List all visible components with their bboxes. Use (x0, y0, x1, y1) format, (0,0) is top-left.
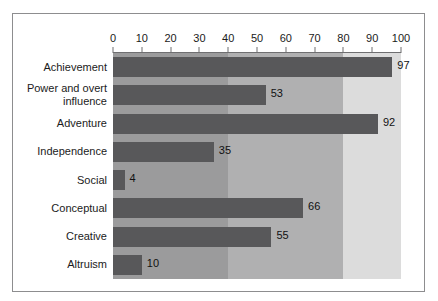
bar-row: 97 (113, 53, 401, 81)
category-label: Achievement (13, 53, 107, 81)
category-label: Power and overtinfluence (13, 81, 107, 109)
x-axis-tick-label: 20 (164, 33, 176, 44)
category-label-line: Altruism (67, 258, 107, 271)
bar-value-label: 10 (147, 257, 159, 270)
category-label: Adventure (13, 110, 107, 138)
category-label: Creative (13, 223, 107, 251)
bar-row: 66 (113, 194, 401, 222)
category-label-line: Social (77, 174, 107, 187)
chart-figure: 0102030405060708090100 AchievementPower … (12, 13, 425, 292)
x-axis-tick-label: 10 (136, 33, 148, 44)
bar[interactable] (113, 198, 303, 218)
bar[interactable] (113, 57, 392, 77)
category-label-line: influence (27, 95, 107, 108)
bar-value-label: 35 (219, 144, 231, 157)
x-axis-tick-label: 30 (193, 33, 205, 44)
bar-value-label: 92 (383, 116, 395, 129)
category-axis-labels: AchievementPower and overtinfluenceAdven… (13, 53, 107, 279)
bar-value-label: 53 (271, 87, 283, 100)
bar-value-label: 66 (308, 200, 320, 213)
x-axis-tick-label: 60 (280, 33, 292, 44)
bar-row: 92 (113, 110, 401, 138)
plot-area: 975392354665510 (113, 53, 401, 279)
bar-row: 55 (113, 223, 401, 251)
bar[interactable] (113, 85, 266, 105)
bar[interactable] (113, 142, 214, 162)
bar[interactable] (113, 227, 271, 247)
bar-row: 10 (113, 251, 401, 279)
category-label-line: Creative (66, 230, 107, 243)
category-label: Altruism (13, 251, 107, 279)
x-axis-tick-label: 50 (251, 33, 263, 44)
category-label: Conceptual (13, 194, 107, 222)
bar[interactable] (113, 170, 125, 190)
bar-row: 4 (113, 166, 401, 194)
category-label: Social (13, 166, 107, 194)
x-axis: 0102030405060708090100 (113, 32, 401, 53)
x-axis-tick-label: 70 (308, 33, 320, 44)
category-label: Independence (13, 138, 107, 166)
bar-row: 35 (113, 138, 401, 166)
x-axis-tick-label: 100 (392, 33, 410, 44)
bar[interactable] (113, 114, 378, 134)
category-label-line: Power and overt (27, 82, 107, 95)
category-label-line: Independence (37, 145, 107, 158)
bar-value-label: 55 (276, 229, 288, 242)
bar-value-label: 4 (130, 172, 136, 185)
x-axis-tick-label: 80 (337, 33, 349, 44)
bar-value-label: 97 (397, 59, 409, 72)
category-label-line: Conceptual (51, 202, 107, 215)
bar-row: 53 (113, 81, 401, 109)
x-axis-tick-label: 40 (222, 33, 234, 44)
bar[interactable] (113, 255, 142, 275)
category-label-line: Adventure (57, 117, 107, 130)
x-axis-tick-label: 0 (110, 33, 116, 44)
category-label-line: Achievement (43, 61, 107, 74)
x-axis-tick-label: 90 (366, 33, 378, 44)
